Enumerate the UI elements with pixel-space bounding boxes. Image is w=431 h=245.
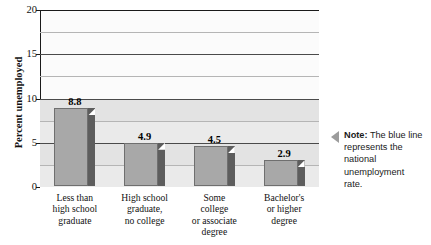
x-axis-label-line: or associate xyxy=(180,215,250,226)
x-axis-label-line: Bachelor's xyxy=(249,192,319,203)
triangle-pointer-icon xyxy=(331,131,339,143)
x-axis-label-line: graduate xyxy=(40,215,110,226)
note-callout: Note: The blue line represents the natio… xyxy=(331,129,431,190)
plot-area: 8.84.94.52.9 xyxy=(40,10,319,187)
bar-value-label: 4.5 xyxy=(186,134,243,145)
x-axis-label-line: high school xyxy=(40,203,110,214)
y-axis-tick-label: 10 xyxy=(15,94,37,104)
x-axis-category-label: Bachelor'sor higherdegree xyxy=(249,192,319,226)
y-axis-tick-mark xyxy=(36,10,40,11)
y-axis-tick-mark xyxy=(36,143,40,144)
y-axis-tick-label: 20 xyxy=(15,5,37,15)
bar xyxy=(194,146,228,186)
x-axis-label-line: no college xyxy=(110,215,180,226)
x-axis-label-line: Some xyxy=(180,192,250,203)
x-axis-label-line: college xyxy=(180,203,250,214)
note-text: Note: The blue line represents the natio… xyxy=(344,129,424,190)
x-axis-category-label: High schoolgraduate,no college xyxy=(110,192,180,226)
bar-side-bevel xyxy=(88,108,95,115)
bar-front-face xyxy=(124,143,158,186)
x-axis-label-line: degree xyxy=(180,226,250,237)
bar xyxy=(124,143,158,186)
y-axis-tick-mark xyxy=(36,99,40,100)
y-axis-tick-label: 15 xyxy=(15,49,37,59)
x-axis-label-line: Less than xyxy=(40,192,110,203)
gridline-minor xyxy=(40,76,319,77)
y-axis-tick-labels: 05101520 xyxy=(12,0,37,245)
bar-side-bevel xyxy=(228,146,235,153)
x-axis-label-line: graduate, xyxy=(110,203,180,214)
bar xyxy=(54,108,88,186)
bar-front-face xyxy=(264,160,298,186)
gridline-minor xyxy=(40,32,319,33)
y-axis-tick-mark xyxy=(36,187,40,188)
bar-value-label: 8.8 xyxy=(46,96,103,107)
bar-value-label: 4.9 xyxy=(116,131,173,142)
x-axis-label-line: degree xyxy=(249,215,319,226)
bar-front-face xyxy=(194,146,228,186)
bar-front-face xyxy=(54,108,88,186)
x-axis-label-line: High school xyxy=(110,192,180,203)
bar-side-face xyxy=(88,108,95,186)
gridline-major xyxy=(40,54,319,55)
y-axis-tick-label: 5 xyxy=(15,138,37,148)
bar-side-face xyxy=(158,143,165,186)
y-axis-tick-mark xyxy=(36,54,40,55)
bar-value-label: 2.9 xyxy=(256,148,313,159)
x-axis-label-line: or higher xyxy=(249,203,319,214)
bar-side-face xyxy=(228,146,235,186)
bar-side-face xyxy=(298,160,305,186)
x-axis-category-label: Less thanhigh schoolgraduate xyxy=(40,192,110,226)
bar-side-bevel xyxy=(298,160,305,167)
note-label: Note: xyxy=(344,130,367,140)
x-axis-category-label: Somecollegeor associatedegree xyxy=(180,192,250,238)
bar xyxy=(264,160,298,186)
bar-side-bevel xyxy=(158,143,165,150)
y-axis-tick-label: 0 xyxy=(15,182,37,192)
gridline-top xyxy=(40,10,319,11)
chart-figure: Percent unemployed 05101520 8.84.94.52.9… xyxy=(0,0,431,245)
